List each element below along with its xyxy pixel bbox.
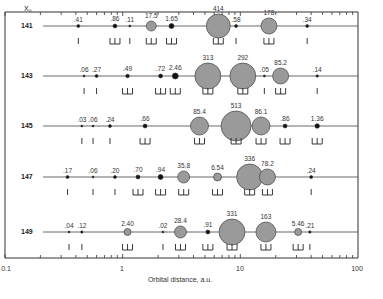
planet-.14 <box>316 75 318 77</box>
planet-mass-label: 5.46 <box>292 221 305 228</box>
planet-.58 <box>235 25 238 28</box>
composition-glyph-icon <box>166 38 176 44</box>
composition-glyph-icon <box>123 244 133 250</box>
planet-mass-label: .20 <box>110 168 119 175</box>
planet-17.5 <box>146 21 156 31</box>
planet-.06 <box>92 176 94 178</box>
planet-.02 <box>162 231 164 233</box>
composition-glyph-icon <box>280 138 290 144</box>
composition-glyph-icon <box>264 38 274 44</box>
planet-mass-label: 313 <box>202 55 213 62</box>
composition-glyph-icon <box>170 88 180 94</box>
composition-glyph-icon <box>227 244 237 250</box>
planet-mass-label: .06 <box>89 168 98 175</box>
planet-1.36 <box>315 124 320 129</box>
planet-mass-label: .58 <box>232 17 241 24</box>
planet-.04 <box>68 231 70 233</box>
planet-mass-label: 78.2 <box>261 161 274 168</box>
composition-glyph-icon <box>203 88 213 94</box>
planet-mass-label: .86 <box>110 16 119 23</box>
planet-mass-label: .94 <box>156 167 165 174</box>
planet-.06 <box>92 125 94 127</box>
row-label-x0-149: 149 <box>21 228 33 235</box>
planet-mass-label: .72 <box>156 66 165 73</box>
planet-mass-label: 85.4 <box>193 109 206 116</box>
planet-mass-label: 336 <box>244 156 255 163</box>
planet-mass-label: .04 <box>64 223 73 230</box>
planet-2.40 <box>124 229 131 236</box>
planet-.41 <box>77 25 80 28</box>
planet-mass-label: 85.2 <box>274 60 287 67</box>
planet-mass-label: .05 <box>260 67 269 74</box>
composition-glyph-icon <box>293 244 303 250</box>
planet-mass-label: .34 <box>303 17 312 24</box>
planet-.94 <box>158 175 163 180</box>
composition-glyph-icon <box>146 38 156 44</box>
planet-.49 <box>126 74 130 78</box>
planet-mass-label: 292 <box>237 55 248 62</box>
planet-.86 <box>283 124 287 128</box>
planet-292 <box>230 63 256 89</box>
planet-.21 <box>309 231 311 233</box>
planet-mass-label: 2.40 <box>121 221 134 228</box>
planet-313 <box>195 63 221 89</box>
planet-mass-label: 35.8 <box>177 163 190 170</box>
planet-.72 <box>159 74 163 78</box>
composition-glyph-icon <box>140 138 150 144</box>
planet-.12 <box>81 231 83 233</box>
planet-.27 <box>95 75 98 78</box>
composition-glyph-icon <box>156 88 166 94</box>
planet-.20 <box>113 176 116 179</box>
composition-glyph-icon <box>156 189 166 195</box>
x-tick-0.1: 0.1 <box>1 265 11 272</box>
planet-178 <box>261 18 277 34</box>
planet-28.4 <box>174 226 186 238</box>
planet-mass-label: .14 <box>313 67 322 74</box>
planet-mass-label: .27 <box>92 67 101 74</box>
planet-85.4 <box>191 117 209 135</box>
composition-glyph-icon <box>195 138 205 144</box>
planet-mass-label: .17 <box>63 168 72 175</box>
planet-mass-label: 513 <box>231 103 242 110</box>
x-tick-10: 10 <box>236 265 244 272</box>
composition-glyph-icon <box>133 189 143 195</box>
planet-mass-label: .70 <box>133 167 142 174</box>
composition-glyph-icon <box>276 88 286 94</box>
planet-mass-label: 6.54 <box>211 165 224 172</box>
planet-mass-label: 2.46 <box>169 65 182 72</box>
composition-glyph-icon <box>245 189 255 195</box>
composition-glyph-icon <box>123 88 133 94</box>
planet-1.65 <box>169 24 174 29</box>
planet-mass-label: .49 <box>123 66 132 73</box>
x-tick-1: 1 <box>120 265 124 272</box>
composition-glyph-icon <box>179 189 189 195</box>
planet-331 <box>219 219 245 245</box>
planet-mass-label: 86.1 <box>255 109 268 116</box>
row-label-x0-143: 143 <box>21 72 33 79</box>
planetary-systems-figure <box>0 0 383 299</box>
planet-.06 <box>83 75 85 77</box>
planet-mass-label: .41 <box>74 17 83 24</box>
composition-glyph-icon <box>175 244 185 250</box>
composition-glyph-icon <box>203 244 213 250</box>
planet-mass-label: 1.36 <box>311 116 324 123</box>
planet-78.2 <box>259 169 275 185</box>
composition-glyph-icon <box>238 88 248 94</box>
composition-glyph-icon <box>256 138 266 144</box>
planet-mass-label: .02 <box>158 223 167 230</box>
planet-mass-label: 414 <box>213 6 224 13</box>
planet-mass-label: 28.4 <box>174 218 187 225</box>
composition-glyph-icon <box>110 38 120 44</box>
planet-.24 <box>108 125 111 128</box>
planet-mass-label: 1.65 <box>165 16 178 23</box>
planet-.05 <box>263 75 265 77</box>
planet-86.1 <box>252 117 270 135</box>
planet-414 <box>206 14 230 38</box>
planet-mass-label: 17.5 <box>145 13 158 20</box>
row-label-x0-147: 147 <box>21 173 33 180</box>
planet-mass-label: .06 <box>80 67 89 74</box>
planet-mass-label: .66 <box>141 116 150 123</box>
corner-label: X₀ <box>24 5 32 12</box>
x-tick-100: 100 <box>351 265 363 272</box>
planet-.17 <box>66 176 69 179</box>
